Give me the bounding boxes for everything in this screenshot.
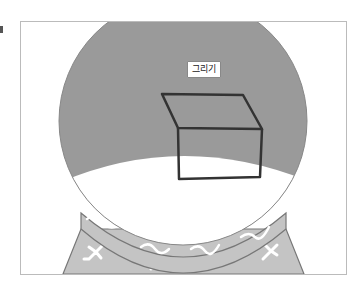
draw-label[interactable]: 그리기 [187, 61, 221, 78]
snow-globe-illustration [21, 22, 346, 274]
illustration-frame [20, 21, 347, 275]
side-marker [0, 26, 3, 33]
